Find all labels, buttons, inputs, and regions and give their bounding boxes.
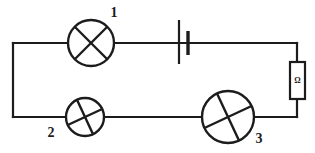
lamp-2-label: 2 [48,125,55,140]
lamp-1-label: 1 [111,5,118,20]
resistor-ohm-label: Ω [294,76,301,85]
lamp-3-label: 3 [256,131,263,146]
circuit-diagram: 1 Ω 2 3 [0,0,315,153]
wire-group [13,43,297,117]
lamp-2: 2 [48,98,105,140]
lamp-3: 3 [202,91,263,146]
resistor: Ω [290,62,305,99]
lamp-1: 1 [68,5,118,66]
